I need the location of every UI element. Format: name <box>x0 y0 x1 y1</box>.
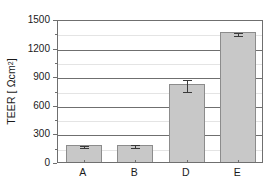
error-bar-cap-upper <box>80 146 89 147</box>
error-bar-cap-upper <box>234 33 243 34</box>
y-tick-label: 300 <box>33 129 50 139</box>
y-axis-title-prefix: TEER [ Ωcm <box>5 65 17 125</box>
y-tick-label: 1500 <box>28 15 50 25</box>
y-tick-major <box>53 163 57 164</box>
x-tick <box>238 160 239 163</box>
y-axis-title-suffix: ] <box>5 58 17 61</box>
x-tick <box>135 160 136 163</box>
error-bar-cap-lower <box>131 148 140 149</box>
y-tick-label: 900 <box>33 72 50 82</box>
error-bar-line <box>187 80 188 91</box>
error-bar-cap-lower <box>80 148 89 149</box>
x-tick <box>84 160 85 163</box>
bar-e <box>220 32 256 162</box>
x-tick <box>187 160 188 163</box>
y-tick-label: 600 <box>33 101 50 111</box>
x-axis: ABDE <box>57 166 263 182</box>
x-tick-label-e: E <box>234 166 241 178</box>
y-axis-title: TEER [ Ωcm2] <box>4 20 18 163</box>
error-bar-cap-upper <box>183 80 192 81</box>
plot-area <box>57 20 263 163</box>
error-bar-cap-lower <box>183 92 192 93</box>
y-tick-label: 1200 <box>28 44 50 54</box>
x-tick-label-a: A <box>79 166 86 178</box>
error-bar-cap-upper <box>131 145 140 146</box>
error-bar-cap-lower <box>234 36 243 37</box>
x-tick-label-b: B <box>131 166 138 178</box>
y-tick-label: 0 <box>44 158 50 168</box>
bar-d <box>169 84 205 162</box>
bar-chart-figure: 030060090012001500 TEER [ Ωcm2] ABDE <box>0 0 274 188</box>
x-tick-label-d: D <box>182 166 190 178</box>
